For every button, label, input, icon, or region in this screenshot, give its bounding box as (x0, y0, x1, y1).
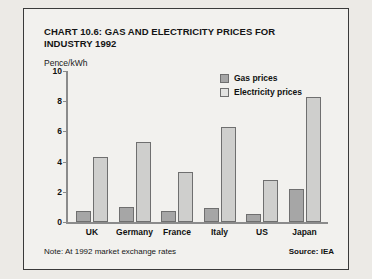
y-axis-line (66, 71, 68, 224)
bar-electricity (136, 142, 151, 222)
figure-background: CHART 10.6: GAS AND ELECTRICITY PRICES F… (0, 0, 372, 279)
footer-source: Source: IEA (289, 247, 334, 256)
plot-area: 0246810 UKGermanyFranceItalyUSJapan (66, 71, 328, 224)
bar-electricity (93, 157, 108, 222)
x-axis-label: Japan (292, 227, 317, 237)
bar-electricity (306, 97, 321, 222)
bar-group (289, 71, 321, 222)
y-axis-tick-mark (63, 101, 66, 102)
bar-group (76, 71, 108, 222)
y-axis-tick-mark (63, 192, 66, 193)
bar-electricity (178, 172, 193, 222)
bar-gas (161, 211, 176, 222)
y-axis-tick-mark (63, 131, 66, 132)
bar-group (161, 71, 193, 222)
x-axis-label: US (256, 227, 268, 237)
y-axis-tick-label: 0 (57, 217, 62, 227)
y-axis-tick-mark (63, 162, 66, 163)
footer-note: Note: At 1992 market exchange rates (44, 247, 176, 256)
y-axis-tick-label: 8 (57, 96, 62, 106)
x-axis-label: Italy (211, 227, 228, 237)
x-axis-label: Germany (116, 227, 153, 237)
bar-group (246, 71, 278, 222)
y-axis-tick-label: 10 (53, 66, 62, 76)
y-axis-tick-label: 2 (57, 187, 62, 197)
chart-card: CHART 10.6: GAS AND ELECTRICITY PRICES F… (23, 8, 349, 270)
bar-gas (289, 189, 304, 222)
y-axis-tick-mark (63, 222, 66, 223)
y-axis-tick-label: 6 (57, 126, 62, 136)
bar-gas (204, 208, 219, 222)
y-axis-tick-mark (63, 71, 66, 72)
chart-title: CHART 10.6: GAS AND ELECTRICITY PRICES F… (44, 26, 314, 49)
bar-group (204, 71, 236, 222)
y-axis-unit-label: Pence/kWh (44, 58, 87, 68)
bar-electricity (221, 127, 236, 222)
x-axis-line (66, 222, 328, 224)
bar-electricity (263, 180, 278, 222)
bar-gas (119, 207, 134, 222)
bar-gas (246, 214, 261, 222)
chart-footer: Note: At 1992 market exchange rates Sour… (44, 247, 334, 256)
bar-group (119, 71, 151, 222)
x-axis-label: UK (86, 227, 98, 237)
bar-gas (76, 211, 91, 222)
x-axis-label: France (163, 227, 191, 237)
y-axis-tick-label: 4 (57, 157, 62, 167)
